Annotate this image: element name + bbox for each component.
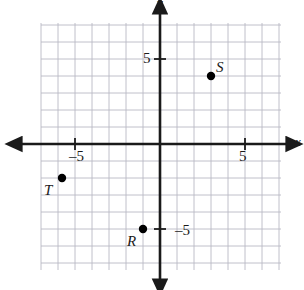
- y-axis-label: y: [157, 0, 163, 9]
- coordinate-plane-figure: –5 5 5 –5 S T R x y: [0, 0, 304, 290]
- x-tick-label-neg5: –5: [69, 149, 84, 164]
- data-point-R: [139, 225, 147, 233]
- x-axis-label: x: [295, 135, 301, 148]
- y-tick-label-neg5: –5: [175, 223, 190, 238]
- coordinate-plane-svg: [0, 0, 304, 290]
- x-tick-label-pos5: 5: [239, 149, 247, 164]
- point-label-T: T: [44, 183, 52, 198]
- point-label-S: S: [216, 60, 224, 75]
- data-point-S: [207, 72, 215, 80]
- point-label-R: R: [127, 234, 136, 249]
- y-tick-label-pos5: 5: [143, 51, 151, 66]
- data-point-T: [58, 174, 66, 182]
